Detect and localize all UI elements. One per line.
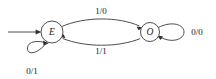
transition-label-e-self: 0/1 [26,66,38,76]
state-node-e[interactable]: E [41,21,63,43]
transition-e-self [27,41,48,53]
state-machine-diagram: E O 1/0 1/1 0/1 0/0 [0,0,216,79]
start-arrow-head-icon [36,30,42,35]
start-arrow [8,30,41,35]
transition-e-to-o-path [62,19,140,27]
transition-label-o-to-e: 1/1 [95,46,107,56]
transition-o-to-e-path [63,38,141,45]
fsm-canvas: E O 1/0 1/1 0/1 0/0 [0,0,216,79]
state-node-e-label: E [48,27,55,37]
state-node-o-label: O [147,27,154,37]
state-node-o[interactable]: O [141,23,160,42]
transition-o-self [157,24,184,40]
transition-label-e-to-o: 1/0 [95,6,107,16]
transition-e-to-o [62,19,143,30]
transition-o-to-e [60,34,141,45]
transition-label-o-self: 0/0 [191,27,203,37]
